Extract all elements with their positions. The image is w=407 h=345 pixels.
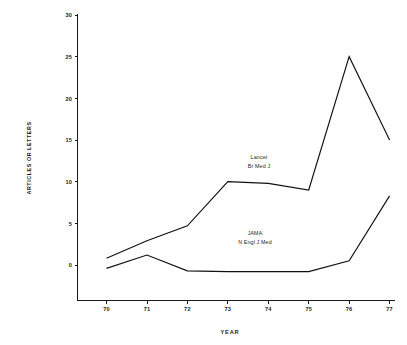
annotation-lancet-line2: Br Med J [248,163,271,169]
y-tick-label-20: 20 [65,96,72,102]
x-axis-title: YEAR [220,329,239,335]
annotation-lancet-line1: Lancet [251,154,268,160]
x-tick-label-75: 75 [305,306,312,312]
y-tick-label-15: 15 [65,137,72,143]
annotation-jama-line1: JAMA [248,230,263,236]
x-tick-label-77: 77 [386,306,393,312]
y-tick-label-30: 30 [65,12,72,18]
x-tick-label-70: 70 [103,306,110,312]
chart-figure: 30 25 20 15 10 5 0 70 71 72 73 74 75 [0,0,407,345]
x-tick-label-76: 76 [346,306,353,312]
y-tick-label-25: 25 [65,54,72,60]
x-tick-label-73: 73 [224,306,231,312]
annotation-jama-line2: N Engl J Med [238,239,272,245]
line-chart-plot: 30 25 20 15 10 5 0 70 71 72 73 74 75 [0,0,407,345]
x-tick-label-72: 72 [184,306,191,312]
y-axis-tick-labels: 30 25 20 15 10 5 0 [65,12,72,268]
x-axis-tick-labels: 70 71 72 73 74 75 76 77 [103,306,393,312]
annotation-jama: JAMA N Engl J Med [238,230,272,245]
x-tick-label-74: 74 [265,306,272,312]
series-line-lancet-br-med-j [107,57,390,259]
x-tick-label-71: 71 [144,306,151,312]
y-tick-label-5: 5 [69,221,72,227]
y-tick-label-10: 10 [65,179,72,185]
y-tick-label-0: 0 [69,262,72,268]
y-axis-title: ARTICLES OR LETTERS [26,121,32,194]
annotation-lancet: Lancet Br Med J [248,154,271,169]
